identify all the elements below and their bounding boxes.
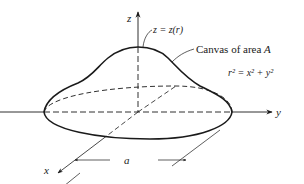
- dimension-a: [64, 130, 220, 184]
- dimension-a-label: a: [124, 154, 130, 166]
- x-axis-label: x: [43, 164, 49, 176]
- base-ellipse-front: [44, 112, 232, 139]
- canvas-label-leader: [172, 49, 194, 62]
- radius-relation: r² = x² + y²: [228, 67, 274, 78]
- y-axis-label: y: [275, 106, 281, 118]
- base-ellipse-back: [44, 86, 232, 112]
- canvas-label-var: A: [263, 43, 271, 55]
- radial-line: [138, 86, 176, 112]
- surface-label: z = z(r): [152, 24, 184, 36]
- surface-label-leader: [143, 30, 152, 47]
- canvas-label-text: Canvas of area: [196, 43, 264, 55]
- diagram-canvas: z y x z = z(r) Canvas of area A r² = x² …: [0, 0, 304, 184]
- z-axis-label: z: [126, 12, 132, 24]
- canvas-label: Canvas of area A: [196, 43, 271, 55]
